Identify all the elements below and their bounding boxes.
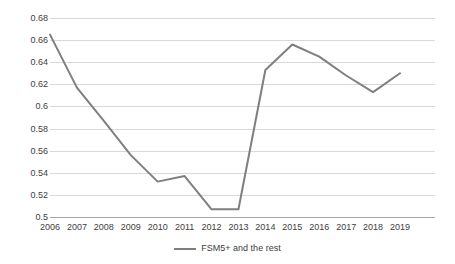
legend-swatch-fsm5-and-the-rest — [174, 248, 196, 250]
chart-legend: FSM5+ and the rest — [0, 243, 455, 254]
line-chart: 0.680.660.640.620.60.580.560.540.520.5 2… — [0, 0, 455, 264]
series-layer — [0, 0, 455, 264]
legend-label-fsm5-and-the-rest: FSM5+ and the rest — [201, 243, 280, 254]
series-line-fsm5-and-the-rest — [50, 35, 400, 210]
